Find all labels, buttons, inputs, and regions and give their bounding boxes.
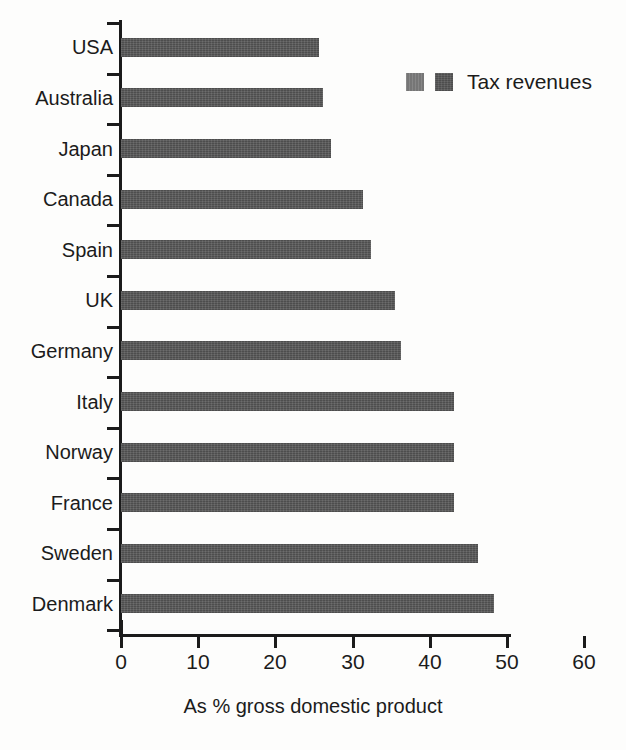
category-label-japan: Japan [0, 138, 113, 160]
y-tick-1 [107, 73, 120, 76]
bar-usa [121, 38, 319, 57]
y-tick-2 [107, 123, 120, 126]
category-label-canada: Canada [0, 188, 113, 210]
x-tick-30 [352, 636, 355, 648]
bar-norway [121, 443, 454, 462]
y-tick-10 [107, 528, 120, 531]
bar-australia [121, 88, 323, 107]
x-tick-label-30: 30 [323, 650, 383, 674]
x-tick-50 [506, 636, 509, 648]
x-tick-10 [197, 636, 200, 648]
y-tick-0 [107, 22, 120, 25]
category-label-uk: UK [0, 289, 113, 311]
x-tick-label-60: 60 [554, 650, 614, 674]
y-tick-5 [107, 275, 120, 278]
bar-germany [121, 341, 401, 360]
x-tick-20 [274, 636, 277, 648]
category-label-italy: Italy [0, 391, 113, 413]
bar-france [121, 493, 454, 512]
category-label-spain: Spain [0, 239, 113, 261]
legend-label-tax-revenues: Tax revenues [467, 70, 592, 94]
bar-denmark [121, 594, 494, 613]
x-tick-60 [583, 636, 586, 648]
x-tick-40 [429, 636, 432, 648]
y-tick-8 [107, 427, 120, 430]
category-label-germany: Germany [0, 340, 113, 362]
legend-swatch-dark-icon [435, 73, 453, 91]
bar-chart: USAAustraliaJapanCanadaSpainUKGermanyIta… [0, 0, 626, 750]
bar-canada [121, 190, 363, 209]
category-label-denmark: Denmark [0, 593, 113, 615]
bar-italy [121, 392, 454, 411]
y-tick-6 [107, 326, 120, 329]
y-tick-3 [107, 174, 120, 177]
x-tick-label-40: 40 [400, 650, 460, 674]
y-tick-9 [107, 477, 120, 480]
y-tick-12 [107, 629, 120, 632]
category-label-sweden: Sweden [0, 542, 113, 564]
x-tick-label-50: 50 [477, 650, 537, 674]
x-tick-label-20: 20 [245, 650, 305, 674]
y-tick-7 [107, 376, 120, 379]
category-label-australia: Australia [0, 87, 113, 109]
category-label-france: France [0, 492, 113, 514]
x-tick-label-10: 10 [168, 650, 228, 674]
x-tick-0 [120, 620, 123, 648]
y-tick-11 [107, 579, 120, 582]
bar-uk [121, 291, 395, 310]
bar-japan [121, 139, 331, 158]
chart-legend: Tax revenues [406, 70, 592, 94]
bar-spain [121, 240, 371, 259]
y-tick-4 [107, 224, 120, 227]
category-label-norway: Norway [0, 441, 113, 463]
category-label-usa: USA [0, 36, 113, 58]
x-axis-title: As % gross domestic product [0, 694, 626, 718]
bar-sweden [121, 544, 478, 563]
x-tick-label-0: 0 [91, 650, 151, 674]
legend-swatch-light-icon [406, 73, 424, 91]
x-axis-line [119, 634, 511, 637]
